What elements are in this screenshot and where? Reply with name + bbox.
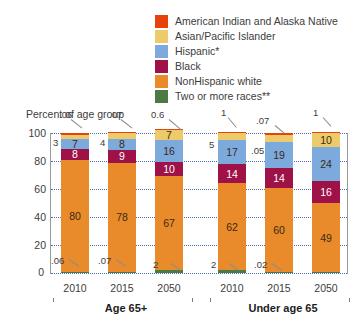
- inner-top-label: 5: [209, 139, 214, 150]
- bar-value-label: 10: [155, 164, 183, 175]
- x-tick-label: 2050: [149, 282, 189, 294]
- bar-segment: 67: [155, 176, 183, 270]
- callout-leader-line: [121, 119, 133, 128]
- legend-swatch-hispanic: [155, 45, 168, 58]
- top-callout-label: 1: [221, 107, 226, 118]
- bottom-callout-label: .02: [254, 259, 267, 270]
- legend-label-two-or-more: Two or more races**: [175, 90, 270, 103]
- bar-1[interactable]: 8978: [108, 132, 136, 273]
- bar-4[interactable]: 191460: [265, 133, 293, 273]
- legend-swatch-asian-pacific: [155, 30, 168, 43]
- bar-2[interactable]: 7161067: [155, 129, 183, 273]
- inner-top-label: 3: [53, 137, 58, 148]
- bar-segment: [61, 272, 89, 273]
- bar-value-label: 67: [155, 218, 183, 229]
- y-tick-label: 100: [20, 127, 46, 139]
- legend-item: Two or more races**: [155, 89, 355, 104]
- bar-segment: [108, 272, 136, 273]
- bar-segment: 60: [265, 188, 293, 272]
- legend-item: American Indian and Alaska Native: [155, 14, 355, 29]
- bar-segment: 49: [312, 203, 340, 272]
- x-tick-label: 2010: [212, 282, 252, 294]
- y-tick-label: 80: [20, 155, 46, 167]
- top-callout-label: 0.6: [151, 109, 164, 120]
- bar-segment: [265, 135, 293, 142]
- bar-segment: 78: [108, 163, 136, 272]
- y-tick-label: 60: [20, 183, 46, 195]
- bar-segment: 10: [155, 162, 183, 176]
- bar-segment: [218, 133, 246, 140]
- bar-value-label: 10: [312, 135, 340, 146]
- x-axis: 201020152050201020152050Age 65+Under age…: [0, 274, 356, 331]
- bar-segment: 14: [218, 164, 246, 184]
- bar-value-label: 17: [218, 147, 246, 158]
- bar-value-label: 9: [108, 151, 136, 162]
- bar-segment: 62: [218, 183, 246, 270]
- bar-segment: 16: [312, 181, 340, 203]
- gridline: [51, 245, 347, 246]
- bar-3[interactable]: 171462: [218, 132, 246, 273]
- bar-value-label: 80: [61, 211, 89, 222]
- y-tick-label: 0: [18, 266, 44, 278]
- bar-segment: 10: [312, 133, 340, 147]
- bar-0[interactable]: 7880: [61, 133, 89, 273]
- bar-value-label: 16: [155, 146, 183, 157]
- legend-label-hispanic: Hispanic*: [175, 45, 219, 58]
- bar-value-label: 19: [265, 150, 293, 161]
- bottom-callout-label: .07: [98, 255, 111, 266]
- right-axis-line: [347, 133, 348, 274]
- legend-label-asian-pacific: Asian/Pacific Islander: [175, 30, 275, 43]
- bar-value-label: 8: [61, 149, 89, 160]
- legend-label-black: Black: [175, 60, 201, 73]
- gridline: [51, 161, 347, 162]
- bottom-callout-label: .06: [51, 255, 64, 266]
- bar-segment: 14: [265, 168, 293, 188]
- bar-segment: 8: [61, 149, 89, 160]
- callout-leader-line: [228, 117, 237, 128]
- bar-value-label: 8: [108, 139, 136, 150]
- bar-value-label: 49: [312, 232, 340, 243]
- legend-item: Black: [155, 59, 355, 74]
- legend-swatch-american-indian: [155, 15, 168, 28]
- bar-segment: 24: [312, 147, 340, 181]
- top-callout-label: 1: [313, 107, 318, 118]
- bar-segment: 8: [108, 139, 136, 150]
- legend-swatch-two-or-more: [155, 90, 168, 103]
- top-callout-label: .07: [256, 115, 269, 126]
- legend-item: NonHispanic white: [155, 74, 355, 89]
- bar-segment: 7: [155, 130, 183, 140]
- bar-value-label: 24: [312, 159, 340, 170]
- gridline: [51, 189, 347, 190]
- callout-leader-line: [71, 119, 83, 128]
- x-tick-label: 2010: [55, 282, 95, 294]
- bar-segment: 16: [155, 140, 183, 162]
- y-tick-label: 20: [20, 239, 46, 251]
- bar-segment: [218, 270, 246, 273]
- bar-5[interactable]: 10241649: [312, 132, 340, 273]
- legend-item: Asian/Pacific Islander: [155, 29, 355, 44]
- bar-value-label: 60: [265, 225, 293, 236]
- inner-top-label: .05: [251, 145, 264, 156]
- x-tick-label: 2050: [306, 282, 346, 294]
- legend-swatch-black: [155, 60, 168, 73]
- bar-segment: 17: [218, 140, 246, 164]
- bar-value-label: 14: [265, 173, 293, 184]
- group-label: Age 65+: [53, 302, 199, 314]
- callout-leader-line: [323, 117, 332, 127]
- y-tick-label: 40: [20, 211, 46, 223]
- legend-label-nonhispanic-white: NonHispanic white: [175, 75, 262, 88]
- bar-value-label: 14: [218, 168, 246, 179]
- chart-plot-area: 78808978716106717146219146010241649.06.0…: [51, 133, 347, 273]
- gridline: [51, 217, 347, 218]
- chart-legend: American Indian and Alaska Native Asian/…: [155, 14, 355, 104]
- bar-segment: [265, 272, 293, 273]
- bar-value-label: 16: [312, 187, 340, 198]
- x-tick-label: 2015: [259, 282, 299, 294]
- y-axis-ticks: 20406080100: [18, 133, 46, 274]
- bar-segment: 9: [108, 150, 136, 163]
- bar-segment: 80: [61, 160, 89, 272]
- bar-value-label: 62: [218, 222, 246, 233]
- inner-top-label: 4: [100, 137, 105, 148]
- bar-value-label: 78: [108, 212, 136, 223]
- legend-label-american-indian: American Indian and Alaska Native: [175, 15, 338, 28]
